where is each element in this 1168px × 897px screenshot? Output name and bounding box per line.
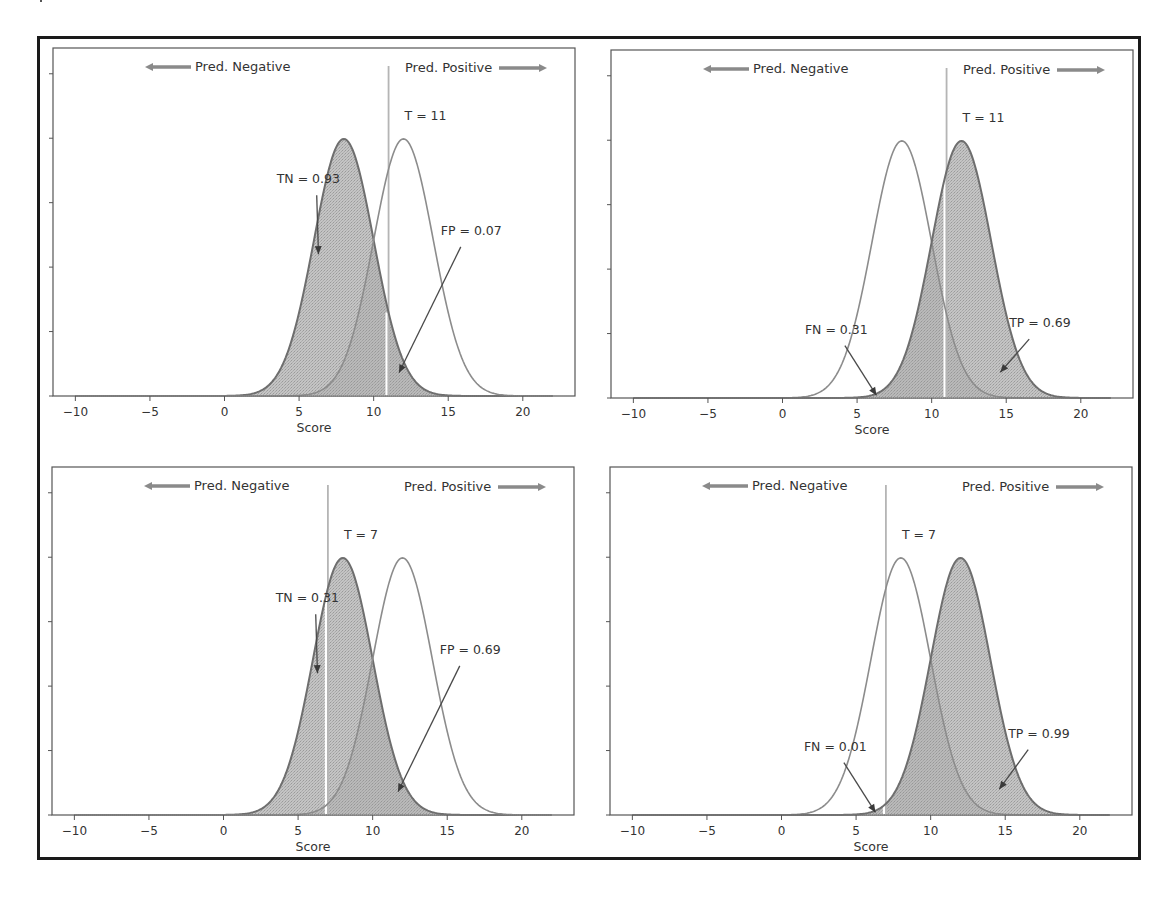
x-tick-label: 10 <box>923 824 938 838</box>
x-tick-label: −10 <box>620 824 645 838</box>
annotation-tp: TP = 0.99 <box>1007 726 1069 741</box>
left-arrowhead-icon <box>702 482 710 490</box>
right-arrowhead-icon <box>1096 483 1104 491</box>
plot-area-frame <box>610 467 1132 815</box>
x-tick-label: 5 <box>852 824 860 838</box>
curve-negative-class <box>632 558 1109 815</box>
x-tick-label: 0 <box>778 824 786 838</box>
x-tick-label: 20 <box>1072 824 1087 838</box>
threshold-label: T = 7 <box>901 527 936 542</box>
chart-panel-bottom-right: −10−505101520ScorePred. NegativePred. Po… <box>0 0 1168 897</box>
x-tick-label: −5 <box>698 824 716 838</box>
annotation-fn: FN = 0.01 <box>804 739 867 754</box>
x-tick-label: 15 <box>998 824 1013 838</box>
curve-positive-class <box>632 558 1109 815</box>
annotation-arrow <box>844 763 876 813</box>
pred-negative-label: Pred. Negative <box>752 478 848 493</box>
x-axis-title: Score <box>853 839 888 854</box>
shaded-area-positive <box>632 558 1109 815</box>
pred-positive-label: Pred. Positive <box>962 479 1049 494</box>
